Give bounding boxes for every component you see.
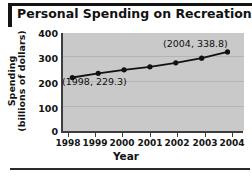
chart-figure: Personal Spending on Recreation Spending… xyxy=(0,0,252,177)
annotation-first-point: (1998, 229.3) xyxy=(62,76,127,87)
bottom-rule xyxy=(10,168,250,170)
data-point-2002 xyxy=(173,60,178,65)
data-point-2003 xyxy=(199,56,204,61)
data-point-2001 xyxy=(147,64,152,69)
plot-figure: Spending (billions of dollars) 400 300 2… xyxy=(0,28,252,168)
title-left-bar xyxy=(8,3,12,27)
chart-title: Personal Spending on Recreation xyxy=(17,6,252,21)
annotation-last-point: (2004, 338.8) xyxy=(163,38,228,49)
data-point-2004 xyxy=(225,49,230,54)
data-point-2000 xyxy=(121,67,126,72)
x-axis-label: Year xyxy=(0,150,252,162)
data-series xyxy=(0,28,252,168)
